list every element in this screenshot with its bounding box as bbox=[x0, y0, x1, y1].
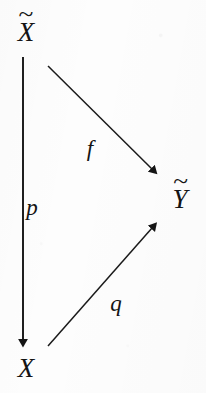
node-x-tilde: ~ X bbox=[18, 17, 35, 46]
tilde-accent-icon: ~ bbox=[19, 3, 34, 26]
diagram-canvas: ~ X X ~ Y p f q bbox=[0, 0, 206, 393]
tilde-accent-icon: ~ bbox=[173, 170, 188, 193]
edge-label-f: f bbox=[87, 137, 93, 160]
node-x-base: X bbox=[18, 353, 35, 383]
arrow-q bbox=[48, 228, 152, 346]
edge-label-p: p bbox=[26, 196, 38, 219]
arrow-f bbox=[48, 66, 152, 169]
node-y-tilde: ~ Y bbox=[172, 184, 187, 213]
edge-label-q: q bbox=[110, 292, 122, 315]
node-x: X bbox=[18, 355, 35, 382]
